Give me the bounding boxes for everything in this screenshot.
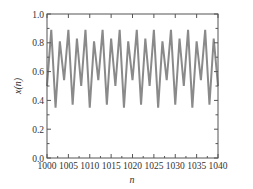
y-tick-label: 0.4	[32, 96, 44, 106]
x-tick-label: 1040	[209, 161, 228, 171]
x-axis: 100010051010101510201025103010351040	[38, 14, 228, 171]
y-tick-label: 0.8	[32, 38, 44, 48]
y-tick-label: 0.6	[32, 67, 44, 77]
x-tick-label: 1035	[187, 161, 206, 171]
x-tick-label: 1020	[123, 161, 142, 171]
x-tick-label: 1030	[166, 161, 185, 171]
x-tick-label: 1015	[102, 161, 121, 171]
y-axis-label: x(n)	[12, 77, 24, 95]
data-line	[47, 30, 218, 108]
x-tick-label: 1005	[59, 161, 78, 171]
plot-frame	[47, 14, 218, 158]
x-tick-label: 1025	[144, 161, 163, 171]
y-tick-label: 0.2	[32, 125, 44, 135]
plot-area	[47, 14, 218, 158]
chart: 100010051010101510201025103010351040 0.0…	[0, 0, 253, 189]
y-tick-label: 0.0	[32, 154, 44, 164]
x-axis-label: n	[130, 174, 135, 185]
x-tick-label: 1010	[80, 161, 99, 171]
y-tick-label: 1.0	[32, 10, 44, 20]
